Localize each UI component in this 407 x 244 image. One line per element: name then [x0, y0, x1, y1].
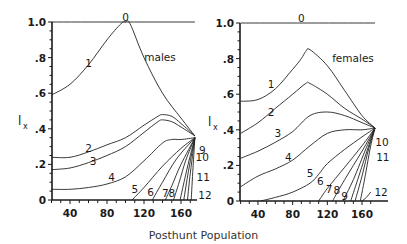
y-axis-label: l [208, 115, 211, 129]
curve-label: 6 [147, 186, 154, 198]
age-class-curve-12 [362, 192, 371, 201]
panel-females: 0.2.4.6.81.04080120160lxfemales012345678… [208, 12, 390, 220]
curve-label: 10 [375, 136, 388, 148]
y-tick-label: .2 [223, 159, 234, 171]
y-tick-label: .2 [35, 158, 46, 170]
curve-label: 5 [131, 183, 138, 195]
curve-label: 2 [268, 106, 275, 118]
curve-label: 0 [298, 12, 305, 24]
age-class-curve-3 [52, 120, 195, 170]
x-tick-label: 80 [285, 208, 300, 220]
panel-title: females [332, 52, 374, 64]
y-tick-label: 1.0 [27, 16, 46, 28]
curve-label: 4 [285, 151, 292, 163]
panel-title: males [144, 51, 176, 63]
x-tick-label: 80 [100, 207, 115, 219]
age-class-curve-1 [52, 21, 195, 136]
y-tick-label: 0 [39, 194, 46, 206]
curve-label: 6 [317, 175, 324, 187]
curve-label: 5 [307, 167, 314, 179]
y-axis-label-subscript: x [23, 122, 28, 131]
x-tick-label: 40 [251, 208, 266, 220]
x-tick-label: 120 [133, 207, 155, 219]
panel-males: 0.2.4.6.81.04080120160lxmales01234567891… [18, 11, 212, 219]
curve-label: 9 [341, 190, 348, 202]
y-axis-label: l [18, 114, 21, 128]
age-class-curve-2 [52, 115, 195, 158]
curve-label: 1 [85, 57, 92, 69]
y-tick-label: 1.0 [215, 17, 234, 29]
x-tick-label: 120 [316, 208, 338, 220]
curve-label: 7 [326, 183, 333, 195]
curve-label: 12 [374, 186, 387, 198]
curve-label: 10 [196, 151, 209, 163]
x-tick-label: 160 [351, 208, 373, 220]
curve-label: 1 [268, 78, 275, 90]
curve-label: 3 [275, 127, 282, 139]
y-tick-label: .4 [223, 124, 234, 136]
curve-label: 3 [90, 155, 97, 167]
y-tick-label: 0 [227, 195, 234, 207]
y-tick-label: .8 [223, 53, 234, 65]
curve-label: 4 [108, 171, 115, 183]
y-tick-label: .6 [35, 87, 46, 99]
y-tick-label: .4 [35, 123, 46, 135]
survivorship-chart: 0.2.4.6.81.04080120160lxmales01234567891… [0, 0, 407, 244]
curve-label: 8 [334, 184, 341, 196]
age-class-curve-2 [241, 82, 375, 133]
y-tick-label: .6 [223, 88, 234, 100]
curve-label: 11 [376, 151, 389, 163]
x-axis-title: Posthunt Population [0, 229, 407, 242]
curve-label: 12 [198, 189, 211, 201]
curve-label: 8 [168, 187, 175, 199]
curve-label: 11 [197, 171, 210, 183]
curve-label: 2 [85, 142, 92, 154]
y-tick-label: .8 [35, 52, 46, 64]
age-class-curve-3 [241, 112, 375, 158]
x-tick-label: 160 [170, 207, 192, 219]
x-tick-label: 40 [63, 207, 78, 219]
y-axis-label-subscript: x [213, 123, 218, 132]
